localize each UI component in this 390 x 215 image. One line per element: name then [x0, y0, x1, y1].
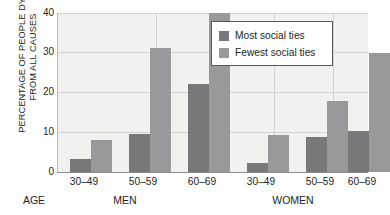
y-tick-0: 0: [32, 167, 54, 177]
bar-men-60-69-most: [188, 84, 209, 172]
category-label-men-60-69: 60–69: [177, 176, 227, 187]
legend-label-most-social-ties: Most social ties: [235, 30, 305, 41]
bar-women-50-59-fewest: [327, 101, 348, 172]
group-label-women: WOMEN: [258, 194, 328, 206]
category-label-women-30-49: 30–49: [236, 176, 286, 187]
y-tick-10: 10: [32, 127, 54, 137]
legend-swatch-most-social-ties: [219, 31, 229, 41]
y-tick-40: 40: [32, 8, 54, 18]
y-tick-30: 30: [32, 47, 54, 57]
bar-men-50-59-fewest: [150, 48, 171, 172]
category-label-men-30-49: 30–49: [59, 176, 109, 187]
legend-item-most: Most social ties: [219, 27, 326, 44]
category-label-men-50-59: 50–59: [118, 176, 168, 187]
legend-swatch-fewest-social-ties: [219, 48, 229, 58]
y-tick-20: 20: [32, 87, 54, 97]
x-axis-line: [57, 172, 368, 173]
legend: Most social ties Fewest social ties: [211, 21, 333, 66]
group-label-men: MEN: [95, 194, 155, 206]
legend-label-fewest-social-ties: Fewest social ties: [235, 47, 315, 58]
y-axis-tick-labels: 40 30 20 10 0: [28, 0, 54, 215]
bar-women-50-59-most: [306, 137, 327, 172]
category-label-women-60-69: 60–69: [337, 176, 387, 187]
x-axis-title-age: AGE: [8, 194, 60, 206]
bar-men-50-59-most: [129, 134, 150, 172]
bar-men-30-49-fewest: [91, 140, 112, 172]
bar-women-60-69-most: [348, 131, 369, 172]
bar-women-30-49-fewest: [268, 135, 289, 172]
bar-men-30-49-most: [70, 159, 91, 172]
y-axis-title-line-1: PERCENTAGE OF PEOPLE DYING: [17, 0, 28, 133]
bar-women-30-49-most: [247, 163, 268, 172]
legend-item-fewest: Fewest social ties: [219, 44, 326, 61]
bar-women-60-69-fewest: [369, 53, 390, 172]
plot-area: Most social ties Fewest social ties: [57, 13, 368, 172]
